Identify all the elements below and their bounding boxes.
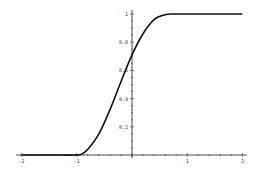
x-tick-label: 2 — [241, 158, 244, 164]
y-tick-label: 0.2 — [119, 124, 128, 130]
y-tick-label: 0.4 — [119, 96, 128, 102]
x-tick-label: 1 — [186, 158, 189, 164]
axes — [16, 10, 247, 158]
chart: -2-1120.20.40.60.81 — [0, 0, 261, 169]
y-tick-label: 0.8 — [119, 39, 128, 45]
plot-area: -2-1120.20.40.60.81 — [0, 0, 261, 169]
y-tick-label: 1 — [125, 11, 128, 17]
x-tick-label: -2 — [19, 158, 25, 164]
x-tick-label: -1 — [74, 158, 80, 164]
